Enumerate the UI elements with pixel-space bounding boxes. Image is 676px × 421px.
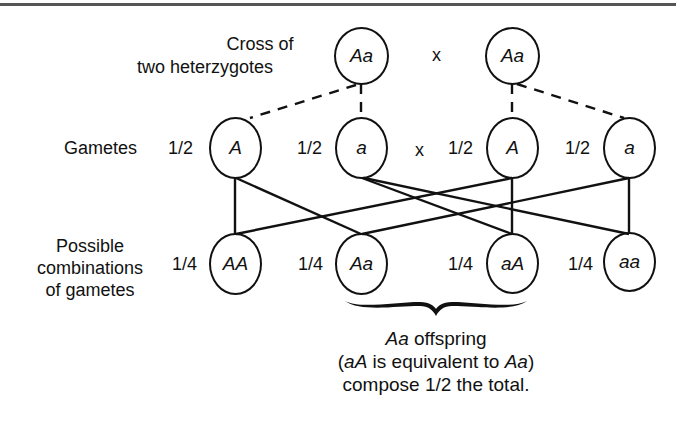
parents-label-line1: Cross of	[160, 33, 360, 55]
parent-node: Aa	[334, 27, 389, 85]
gamete-probability: 1/2	[168, 137, 193, 159]
gamete-probability: 1/2	[297, 137, 322, 159]
curly-brace	[345, 301, 527, 316]
combinations-label-line2: combinations	[20, 257, 160, 279]
offspring-node: aa	[603, 232, 656, 292]
note-text: offspring	[409, 328, 487, 349]
cross-symbol: x	[432, 44, 441, 66]
gamete-node: a	[603, 117, 656, 179]
combinations-label-line3: of gametes	[20, 279, 160, 301]
note-line-2: (aA is equivalent to Aa)	[286, 350, 586, 373]
offspring-probability: 1/4	[172, 253, 197, 275]
offspring-probability: 1/4	[568, 253, 593, 275]
dashed-line-p2-ga	[517, 84, 624, 118]
note-genotype: aA	[344, 351, 367, 372]
dashed-line-p1-gA	[250, 85, 356, 118]
note-line-1: Aa offspring	[286, 327, 586, 350]
line-gA2-AA	[236, 178, 512, 234]
explanatory-note: Aa offspring (aA is equivalent to Aa) co…	[286, 327, 586, 396]
offspring-node: AA	[209, 233, 262, 295]
note-line-3: compose 1/2 the total.	[286, 373, 586, 396]
combinations-label-line1: Possible	[20, 235, 160, 257]
line-gA1-Aa	[236, 178, 361, 234]
punnett-cross-diagram: Cross of two heterzygotes Gametes Possib…	[0, 0, 676, 421]
cross-symbol: x	[415, 139, 424, 161]
gamete-node: A	[209, 117, 262, 179]
parent-node: Aa	[485, 27, 540, 85]
gamete-probability: 1/2	[565, 137, 590, 159]
gamete-probability: 1/2	[448, 137, 473, 159]
line-ga1-aA	[362, 178, 512, 234]
offspring-probability: 1/4	[448, 253, 473, 275]
gametes-label: Gametes	[64, 137, 137, 159]
parents-label-line2: two heterzygotes	[137, 56, 273, 78]
offspring-node: Aa	[335, 233, 388, 295]
note-paren: )	[528, 351, 534, 372]
note-genotype: Aa	[385, 328, 408, 349]
offspring-probability: 1/4	[298, 253, 323, 275]
note-genotype: Aa	[505, 351, 528, 372]
offspring-node: aA	[486, 233, 539, 294]
gamete-node: a	[335, 117, 388, 179]
note-text: is equivalent to	[367, 351, 504, 372]
gamete-node: A	[486, 117, 539, 179]
